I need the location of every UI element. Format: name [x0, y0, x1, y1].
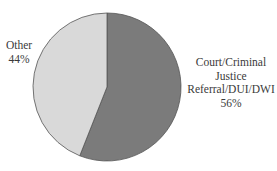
slice-label-court-line1: Court/Criminal	[186, 56, 276, 70]
slice-label-court-line3: Referral/DUI/DWI	[186, 83, 276, 97]
slice-label-other-percent: 44%	[6, 53, 32, 67]
slice-label-court-referral: Court/Criminal Justice Referral/DUI/DWI …	[186, 56, 276, 110]
slice-label-court-line2: Justice	[186, 70, 276, 84]
slice-label-court-percent: 56%	[186, 97, 276, 111]
slice-label-other-name: Other	[6, 39, 32, 53]
pie-slices	[33, 13, 181, 161]
slice-label-other: Other 44%	[6, 39, 32, 66]
